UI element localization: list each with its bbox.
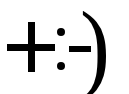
colon-bottom-dot	[57, 62, 65, 70]
colon-top-dot	[57, 28, 65, 36]
emoticon: +:-) )	[0, 0, 129, 94]
paren-mouth: )	[80, 3, 110, 91]
emoticon-text: +:-)	[0, 0, 1, 1]
plus-vertical-bar	[28, 22, 35, 72]
